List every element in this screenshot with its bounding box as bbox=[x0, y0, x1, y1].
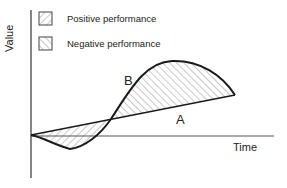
legend-label-positive: Positive performance bbox=[67, 13, 156, 24]
curve-a-label: A bbox=[176, 112, 185, 127]
legend-swatch-positive bbox=[39, 12, 52, 25]
diagram-canvas bbox=[0, 0, 287, 188]
x-axis-label: Time bbox=[233, 141, 257, 153]
legend-swatch-negative bbox=[39, 37, 52, 50]
performance-diagram: Value Positive performance Negative perf… bbox=[0, 0, 287, 188]
y-axis-label: Value bbox=[3, 25, 15, 52]
curve-b-label: B bbox=[124, 73, 133, 88]
legend-label-negative: Negative performance bbox=[67, 38, 160, 49]
